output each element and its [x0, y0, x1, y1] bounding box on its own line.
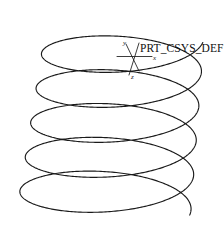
csys-axis-label-x: x — [152, 54, 157, 62]
cad-drawing-canvas: xyzPRT_CSYS_DEF — [0, 0, 224, 252]
coordinate-system: xyzPRT_CSYS_DEF — [117, 39, 224, 81]
helix-drawing-svg: xyzPRT_CSYS_DEF — [0, 0, 224, 252]
csys-axis-label-y: y — [122, 39, 127, 47]
helix-sweep-curve — [20, 36, 203, 215]
csys-axis-label-z: z — [130, 73, 134, 81]
csys-name-label: PRT_CSYS_DEF — [140, 42, 224, 54]
